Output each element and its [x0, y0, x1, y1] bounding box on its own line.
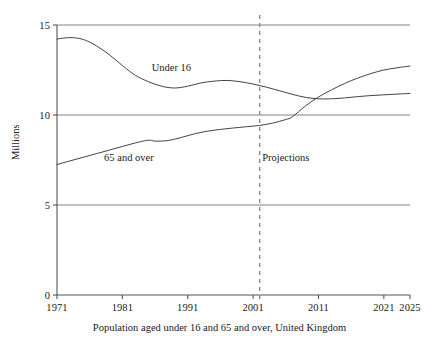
x-tick-label-2021: 2021 [373, 302, 394, 313]
x-tick-label-2011: 2011 [308, 302, 329, 313]
y-tick-label-5: 5 [22, 200, 50, 211]
y-tick-label-15: 15 [22, 20, 50, 31]
chart-plot-area [0, 0, 439, 351]
chart-caption: Population aged under 16 and 65 and over… [0, 322, 439, 333]
65-and-over-label: 65 and over [104, 152, 154, 163]
under-16-label: Under 16 [152, 62, 191, 73]
x-tick-label-2001: 2001 [242, 302, 263, 313]
population-line-chart: Millions 051015 197119811991200120112021… [0, 0, 439, 351]
x-tick-label-1991: 1991 [177, 302, 198, 313]
projections-label: Projections [262, 152, 309, 163]
x-tick-label-1981: 1981 [112, 302, 133, 313]
x-tick-label-2025: 2025 [399, 302, 420, 313]
y-tick-label-0: 0 [22, 290, 50, 301]
y-axis-title: Millions [10, 124, 21, 160]
series-line-0 [57, 38, 410, 99]
x-tick-label-1971: 1971 [46, 302, 67, 313]
y-tick-label-10: 10 [22, 110, 50, 121]
